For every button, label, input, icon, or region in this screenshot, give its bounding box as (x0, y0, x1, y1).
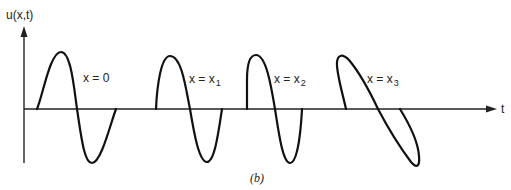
wave-label-x2: x = x2 (274, 72, 306, 88)
wave-label-x3: x = x3 (367, 72, 399, 88)
t-axis-arrow-icon (486, 106, 497, 113)
wave-label-x1: x = x1 (189, 72, 221, 88)
t-axis-label: t (501, 102, 505, 116)
wave-label-x0: x = 0 (83, 71, 110, 85)
figure-caption: (b) (250, 171, 264, 185)
wave-steepening-diagram: u(x,t) t x = 0 x = x1 x = x2 x = x3 (b) (0, 0, 511, 190)
t-axis (24, 106, 497, 113)
wave-x0 (37, 52, 116, 163)
y-axis (21, 26, 28, 163)
y-axis-arrow-icon (21, 26, 28, 37)
y-axis-label: u(x,t) (6, 8, 33, 22)
